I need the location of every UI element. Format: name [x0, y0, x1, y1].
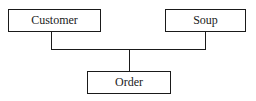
connector-customer-down: [51, 31, 52, 50]
node-order: Order: [87, 71, 171, 94]
node-soup-label: Soup: [193, 13, 218, 28]
connector-soup-down: [205, 31, 206, 50]
node-soup: Soup: [165, 9, 246, 32]
node-customer-label: Customer: [31, 13, 78, 28]
connector-order-up: [129, 49, 130, 71]
node-order-label: Order: [115, 75, 143, 90]
node-customer: Customer: [8, 9, 101, 32]
diagram-canvas: Customer Soup Order: [0, 0, 256, 101]
